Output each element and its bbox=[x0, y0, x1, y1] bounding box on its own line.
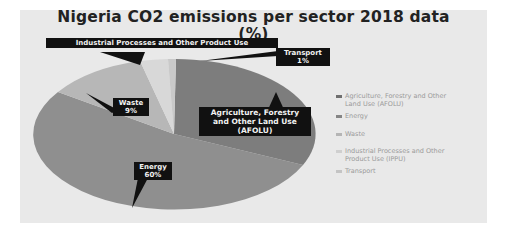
ippu-pointer bbox=[100, 52, 145, 65]
label-afolu-line3: (AFOLU) bbox=[202, 126, 308, 135]
legend-swatch-afolu bbox=[336, 95, 342, 98]
label-transport-pct: 1% bbox=[279, 57, 327, 65]
legend-item-afolu[interactable]: Agriculture, Forestry and Other Land Use… bbox=[336, 93, 486, 108]
label-energy: Energy 60% bbox=[134, 162, 172, 180]
label-afolu-line1: Agriculture, Forestry bbox=[202, 108, 308, 117]
label-energy-name: Energy bbox=[137, 163, 169, 171]
label-ippu: Industrial Processes and Other Product U… bbox=[46, 38, 278, 48]
label-afolu-line2: and Other Land Use bbox=[202, 117, 308, 126]
legend-item-transport[interactable]: Transport bbox=[336, 168, 486, 176]
label-afolu: Agriculture, Forestry and Other Land Use… bbox=[199, 107, 311, 136]
chart-legend: Agriculture, Forestry and Other Land Use… bbox=[336, 93, 486, 181]
legend-swatch-ippu bbox=[336, 150, 342, 153]
legend-swatch-transport bbox=[336, 170, 342, 173]
legend-label-waste: Waste bbox=[345, 131, 486, 139]
legend-swatch-energy bbox=[336, 115, 342, 118]
label-energy-pct: 60% bbox=[137, 171, 169, 179]
legend-item-ippu[interactable]: Industrial Processes and Other Product U… bbox=[336, 148, 486, 163]
legend-label-afolu-2: Land Use (AFOLU) bbox=[345, 101, 486, 109]
label-ippu-text: Industrial Processes and Other Product U… bbox=[76, 39, 248, 47]
label-waste-pct: 9% bbox=[116, 107, 146, 115]
label-waste-name: Waste bbox=[116, 99, 146, 107]
label-transport-name: Transport bbox=[279, 49, 327, 57]
legend-label-energy: Energy bbox=[345, 113, 486, 121]
label-waste: Waste 9% bbox=[113, 98, 149, 116]
legend-label-transport: Transport bbox=[345, 168, 486, 176]
legend-label-ippu-2: Product Use (IPPU) bbox=[345, 156, 486, 164]
legend-swatch-waste bbox=[336, 133, 342, 136]
transport-pointer bbox=[200, 51, 278, 61]
legend-item-energy[interactable]: Energy bbox=[336, 113, 486, 121]
legend-item-waste[interactable]: Waste bbox=[336, 131, 486, 139]
label-transport: Transport 1% bbox=[276, 48, 330, 66]
